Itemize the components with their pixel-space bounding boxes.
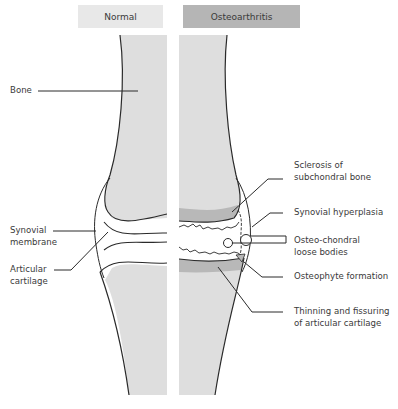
label-sclerosis-line1: Sclerosis of [294,160,343,172]
label-articular-cartilage-line1: Articular [10,264,47,276]
normal-joint [95,35,167,395]
normal-lower-bone [105,264,167,395]
loose-body-1 [224,239,233,248]
label-synovial-membrane-line1: Synovial [10,225,46,237]
loose-body-2 [241,235,252,246]
label-loose-bodies-line1: Osteo-chondral [294,235,360,247]
label-synovial-hyperplasia: Synovial hyperplasia [294,207,383,219]
label-sclerosis-line2: subchondral bone [294,172,371,184]
oa-lower-cartilage-fissured [179,247,242,256]
label-bone: Bone [10,85,32,97]
label-synovial-membrane-line2: membrane [10,237,57,249]
label-articular-cartilage-line2: cartilage [10,276,48,288]
oa-upper-cartilage-fissured [179,222,239,230]
label-loose-bodies-line2: loose bodies [294,247,348,259]
oa-lower-bone [179,258,244,395]
label-thinning-line2: of articular cartilage [294,318,381,330]
normal-upper-bone [106,35,167,220]
knee-joint-diagram [0,0,398,409]
label-thinning-line1: Thinning and fissuring [294,306,390,318]
oa-upper-bone [179,35,239,222]
label-osteophyte: Osteophyte formation [294,271,388,283]
oa-joint [179,35,252,395]
